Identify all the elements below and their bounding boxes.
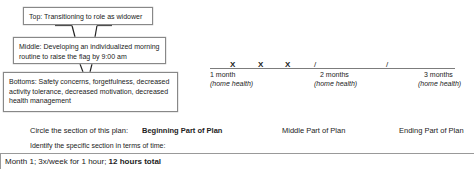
top-box-text: Top: Transitioning to role as widower: [29, 13, 142, 20]
middle-box-text: Middle: Developing an individualized mor…: [19, 43, 159, 60]
time-answer-plain: Month 1; 3x/week for 1 hour;: [5, 157, 109, 166]
bottom-box-text: Bottoms: Safety concerns, forgetfulness,…: [9, 78, 169, 104]
middle-box: Middle: Developing an individualized mor…: [13, 37, 166, 64]
top-box: Top: Transitioning to role as widower: [23, 7, 153, 25]
option-beginning[interactable]: Beginning Part of Plan: [142, 126, 222, 135]
option-ending[interactable]: Ending Part of Plan: [399, 126, 464, 135]
timeline-label-3-months: 3 months: [424, 71, 453, 78]
timeline-mark-x: X: [285, 60, 290, 69]
timeline-label-1-month: 1 month: [210, 71, 235, 78]
timeline-mark-slash: /: [386, 60, 388, 69]
time-answer-bold: 12 hours total: [109, 157, 161, 166]
option-middle[interactable]: Middle Part of Plan: [282, 126, 345, 135]
time-answer-box: Month 1; 3x/week for 1 hour; 12 hours to…: [0, 153, 474, 169]
timeline-mark-slash: /: [314, 60, 316, 69]
timeline-sub-3-months: (home health): [418, 80, 461, 87]
time-question-prompt: Identify the specific section in terms o…: [30, 142, 165, 149]
timeline-mark-x: X: [258, 60, 263, 69]
section-question-prompt: Circle the section of this plan:: [30, 126, 128, 135]
timeline-mark-x: X: [230, 60, 235, 69]
timeline-sub-2-months: (home health): [314, 80, 357, 87]
bottom-box: Bottoms: Safety concerns, forgetfulness,…: [3, 72, 178, 112]
timeline-sub-1-month: (home health): [210, 80, 253, 87]
timeline-label-2-months: 2 months: [320, 71, 349, 78]
